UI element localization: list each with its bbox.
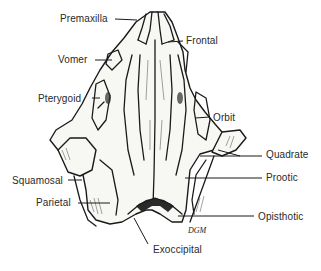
label-vomer: Vomer	[58, 55, 87, 65]
label-parietal: Parietal	[36, 198, 71, 208]
label-prootic: Prootic	[266, 173, 298, 183]
label-exoccipital: Exoccipital	[153, 245, 202, 255]
label-opisthotic: Opisthotic	[258, 212, 303, 222]
label-squamosal: Squamosal	[12, 176, 63, 186]
artist-signature: DGM	[187, 226, 208, 235]
label-frontal: Frontal	[186, 36, 218, 46]
label-pterygoid: Pterygoid	[38, 94, 81, 104]
label-orbit: Orbit	[213, 113, 235, 123]
label-quadrate: Quadrate	[266, 150, 309, 160]
skull-diagram: DGM	[0, 0, 321, 271]
label-premaxilla: Premaxilla	[60, 14, 108, 24]
